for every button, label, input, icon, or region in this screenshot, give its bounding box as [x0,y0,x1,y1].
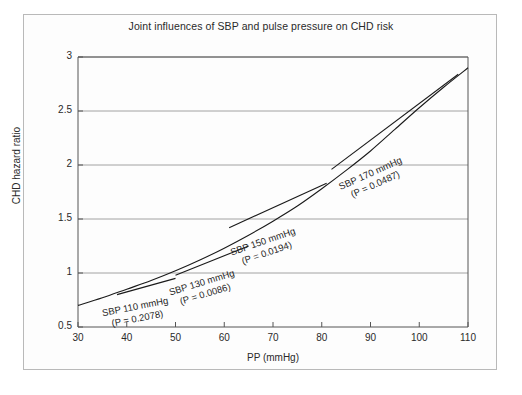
x-tick-label-0: 30 [63,332,93,343]
y-tick-label-5: 3 [46,50,72,61]
y-tick-label-3: 2 [46,158,72,169]
series-line-overall-pp-curve [78,68,468,306]
x-tick-label-6: 90 [356,332,386,343]
y-tick-label-0: 0.5 [46,320,72,331]
y-tick-label-4: 2.5 [46,104,72,115]
series-line-sbp-150-mmhg [229,183,327,227]
x-tick-label-7: 100 [404,332,434,343]
x-tick-label-8: 110 [453,332,483,343]
plot-frame [78,57,468,327]
y-tick-label-1: 1 [46,266,72,277]
x-tick-label-1: 40 [112,332,142,343]
x-tick-label-2: 50 [161,332,191,343]
y-tick-label-2: 1.5 [46,212,72,223]
x-tick-label-3: 60 [209,332,239,343]
x-tick-label-5: 80 [307,332,337,343]
x-tick-label-4: 70 [258,332,288,343]
